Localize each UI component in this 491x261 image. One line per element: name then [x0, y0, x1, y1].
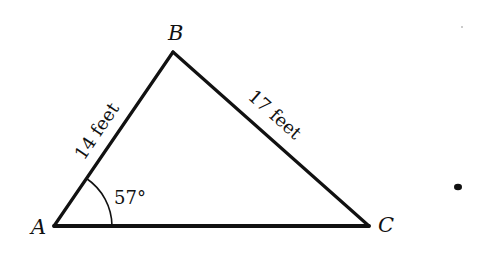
vertex-label-c: C	[378, 213, 394, 237]
side-bc	[173, 52, 369, 226]
vertex-label-b: B	[167, 21, 183, 45]
triangle-diagram: B A C 14 feet 17 feet 57°	[0, 0, 491, 261]
angle-label-a: 57°	[114, 187, 146, 208]
speck	[461, 26, 463, 28]
side-label-ab: 14 feet	[70, 98, 124, 163]
side-label-bc: 17 feet	[244, 85, 306, 144]
angle-arc-a	[87, 179, 113, 227]
stray-dot	[454, 184, 462, 191]
vertex-label-a: A	[29, 215, 46, 239]
